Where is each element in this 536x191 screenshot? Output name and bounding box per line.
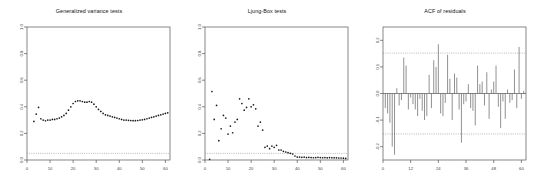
data-point: [218, 140, 220, 142]
data-point: [271, 145, 273, 147]
y-tick-label: -0.1: [375, 116, 380, 124]
data-point: [61, 116, 63, 118]
data-point: [257, 125, 259, 127]
data-point: [65, 113, 67, 115]
data-point: [289, 153, 291, 155]
data-point: [153, 116, 155, 118]
data-point: [294, 155, 296, 157]
data-point: [88, 101, 90, 103]
data-point: [116, 117, 118, 119]
x-tick-label: 30: [94, 166, 99, 171]
panel-generalized-variance-tests: Generalized variance tests 0.00.20.40.60…: [0, 0, 178, 191]
y-tick-label: 0.8: [197, 50, 202, 56]
data-point: [148, 117, 150, 119]
data-point: [276, 145, 278, 147]
data-point: [234, 121, 236, 123]
data-point: [236, 119, 238, 121]
data-point: [225, 117, 227, 119]
data-point: [82, 101, 84, 103]
data-point: [269, 148, 271, 150]
data-point: [162, 113, 164, 115]
data-point: [260, 121, 262, 123]
data-point: [317, 156, 319, 158]
data-point: [253, 104, 255, 106]
data-point: [33, 121, 35, 123]
data-point: [144, 119, 146, 121]
data-point: [264, 147, 266, 149]
data-point: [107, 115, 109, 117]
x-tick-label: 60: [163, 166, 168, 171]
data-point: [326, 157, 328, 159]
data-point: [329, 157, 331, 159]
data-point: [283, 151, 285, 153]
data-point: [132, 120, 134, 122]
x-tick-label: 0: [204, 166, 207, 171]
y-tick-label: 1.0: [197, 23, 202, 29]
data-point: [130, 120, 132, 122]
data-point: [232, 132, 234, 134]
data-point: [338, 157, 340, 159]
data-point: [292, 153, 294, 155]
y-tick-label: 0.4: [19, 103, 24, 109]
data-point: [109, 115, 111, 117]
data-point: [266, 145, 268, 147]
data-point: [91, 101, 93, 103]
data-point: [315, 157, 317, 159]
data-point: [56, 118, 58, 120]
x-tick-label: 30: [272, 166, 277, 171]
data-point: [299, 156, 301, 158]
x-tick-label: 0: [26, 166, 29, 171]
x-tick-label: 50: [318, 166, 323, 171]
data-point: [123, 119, 125, 121]
y-tick-label: 0.2: [19, 130, 24, 136]
panel-acf-of-residuals: ACF of residuals -0.2-0.10.00.10.2012243…: [356, 0, 534, 191]
data-point: [141, 119, 143, 121]
data-point: [146, 118, 148, 120]
data-point: [121, 119, 123, 121]
data-point: [220, 128, 222, 130]
data-point: [209, 158, 211, 160]
data-point: [345, 158, 347, 160]
y-tick-label: 0.0: [19, 156, 24, 162]
data-point: [308, 156, 310, 158]
x-tick-label: 40: [117, 166, 122, 171]
data-point: [111, 116, 113, 118]
x-tick-label: 60: [519, 166, 524, 171]
data-point: [340, 157, 342, 159]
data-point: [100, 111, 102, 113]
x-tick-label: 0: [382, 166, 385, 171]
y-tick-label: 0.1: [375, 63, 380, 69]
data-point: [75, 101, 77, 103]
data-point: [273, 147, 275, 149]
data-point: [102, 113, 104, 115]
data-point: [38, 107, 40, 109]
data-point: [303, 156, 305, 158]
data-point: [151, 117, 153, 119]
data-point: [42, 119, 44, 121]
data-point: [213, 119, 215, 121]
data-point: [93, 103, 95, 105]
data-point: [285, 151, 287, 153]
data-point: [165, 113, 167, 115]
y-tick-label: 0.4: [197, 103, 202, 109]
y-tick-label: 0.0: [197, 156, 202, 162]
x-tick-label: 10: [48, 166, 53, 171]
data-point: [343, 157, 345, 159]
x-tick-label: 10: [226, 166, 231, 171]
plot-frame: [27, 27, 170, 160]
data-point: [255, 108, 257, 110]
data-point: [158, 115, 160, 117]
data-point: [45, 120, 47, 122]
y-tick-label: -0.2: [375, 142, 380, 150]
data-point: [319, 157, 321, 159]
data-point: [49, 119, 51, 121]
data-point: [105, 114, 107, 116]
data-point: [118, 118, 120, 120]
x-tick-label: 40: [295, 166, 300, 171]
data-point: [216, 105, 218, 107]
data-point: [322, 157, 324, 159]
data-point: [114, 117, 116, 119]
y-tick-label: 0.6: [19, 77, 24, 83]
x-tick-label: 12: [408, 166, 413, 171]
data-point: [86, 101, 88, 103]
